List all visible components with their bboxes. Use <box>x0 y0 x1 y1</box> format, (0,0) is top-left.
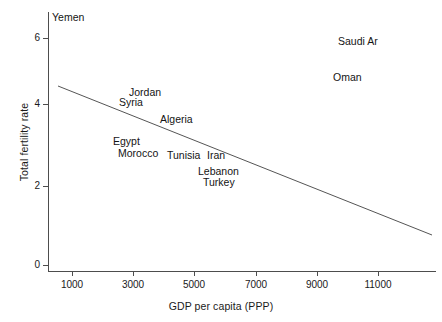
x-tick-label-7000: 7000 <box>245 279 267 290</box>
point-label-iran: Iran <box>207 150 225 161</box>
x-tick-3000 <box>133 271 134 276</box>
x-tick-1000 <box>72 271 73 276</box>
x-tick-label-1000: 1000 <box>61 279 83 290</box>
x-tick-label-11000: 11000 <box>364 279 391 290</box>
y-tick-label-0-wrap: 0 <box>22 260 40 270</box>
x-tick-5000 <box>194 271 195 276</box>
x-tick-label-5000: 5000 <box>183 279 205 290</box>
fit-line <box>0 0 442 322</box>
fertility-gdp-scatter-chart: 6 4 2 0 1000 3000 5000 7000 9000 11000 G… <box>0 0 442 322</box>
point-label-saudi-arabia: Saudi Ar <box>338 36 378 47</box>
point-label-syria: Syria <box>119 97 143 108</box>
point-label-egypt: Egypt <box>113 136 140 147</box>
y-tick-label-0: 0 <box>22 260 40 270</box>
y-tick-6 <box>43 38 48 39</box>
clipped-caption-fragment <box>90 0 370 3</box>
point-label-oman: Oman <box>333 72 362 83</box>
y-axis-line <box>48 12 49 272</box>
x-tick-11000 <box>378 271 379 276</box>
x-tick-9000 <box>317 271 318 276</box>
y-axis-title: Total fertility rate <box>18 72 30 212</box>
point-label-algeria: Algeria <box>160 114 193 125</box>
x-axis-title: GDP per capita (PPP) <box>0 300 442 312</box>
x-tick-label-9000: 9000 <box>306 279 328 290</box>
x-tick-7000 <box>256 271 257 276</box>
point-label-morocco: Morocco <box>118 148 158 159</box>
point-label-tunisia: Tunisia <box>167 150 200 161</box>
y-tick-0 <box>43 265 48 266</box>
x-tick-label-3000: 3000 <box>122 279 144 290</box>
y-tick-label-6: 6 <box>22 33 40 43</box>
y-tick-label-6-wrap: 6 <box>22 33 40 43</box>
point-label-yemen: Yemen <box>52 12 84 23</box>
y-tick-4 <box>43 104 48 105</box>
y-tick-2 <box>43 186 48 187</box>
point-label-turkey: Turkey <box>203 177 235 188</box>
